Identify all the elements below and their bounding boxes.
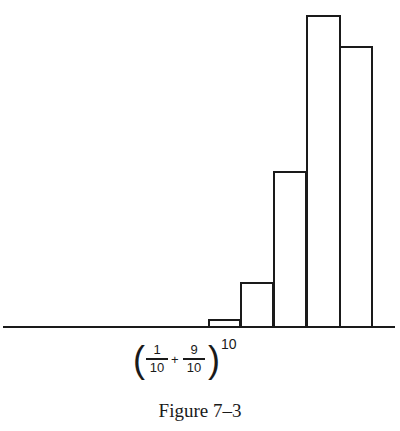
fraction-denominator: 10 [146,361,168,375]
fraction-denominator: 10 [183,361,205,375]
open-paren: ( [133,342,145,378]
close-paren: ) [208,342,220,378]
plus-sign: + [171,352,179,367]
figure-caption: Figure 7–3 [0,400,400,422]
histogram-bar-7 [240,282,274,328]
fraction-nine-tenths: 9 10 [183,343,205,375]
histogram-figure: ( 1 10 + 9 10 ) 10 Figure 7–3 [0,0,400,431]
x-axis-baseline [3,326,395,328]
exponent: 10 [221,336,237,352]
histogram-bar-8 [273,171,307,328]
fraction-numerator: 1 [146,343,168,357]
fraction-numerator: 9 [183,343,205,357]
histogram-bar-10 [339,46,373,328]
histogram-bar-9 [306,15,341,328]
fraction-one-tenth: 1 10 [146,343,168,375]
